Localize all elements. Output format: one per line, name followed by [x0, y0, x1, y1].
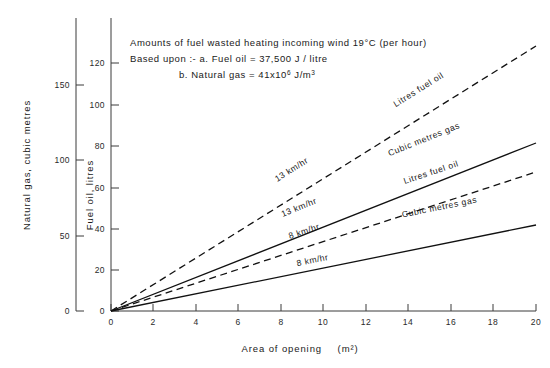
y-right-tick-label: 20	[95, 265, 105, 275]
series-line-litres-fuel-oil-13kmh	[111, 46, 536, 311]
x-tick-label: 4	[193, 317, 198, 327]
x-axis-ticks: 0 2 4 6 8 10 12 14 16 18 20	[108, 304, 541, 327]
x-axis-units: (m²)	[338, 343, 359, 354]
x-tick-label: 20	[531, 317, 541, 327]
chart-note-basis-a: Based upon :- a. Fuel oil = 37,500 J / l…	[130, 53, 328, 64]
speed-label-8kmh-gas: 8 km/hr	[296, 252, 330, 268]
x-tick-label: 18	[488, 317, 498, 327]
y-left-tick-label: 150	[55, 80, 70, 90]
y-right-tick-label: 60	[95, 183, 105, 193]
chart-figure: 150 100 50 0 120 100 80 60 40 20 0	[0, 0, 550, 368]
x-tick-label: 12	[361, 317, 371, 327]
y-left-tick-label: 0	[65, 306, 70, 316]
series-label-litres-fuel-oil-13kmh: Litres fuel oil	[391, 70, 445, 109]
y-right-tick-label: 100	[90, 100, 105, 110]
series-line-litres-fuel-oil-8kmh	[111, 172, 536, 311]
chart-note-basis-b: b. Natural gas = 41x106 J/m3	[179, 69, 315, 81]
y-right-tick-label: 40	[95, 224, 105, 234]
series-label-cubic-metres-gas-8kmh: Cubic metres gas	[401, 195, 478, 220]
y-axis-left-ticks: 150 100 50 0	[55, 80, 84, 316]
x-tick-label: 14	[403, 317, 413, 327]
chart-title-note: Amounts of fuel wasted heating incoming …	[130, 37, 427, 48]
note-b-suffix: J/m	[291, 69, 311, 80]
y-right-tick-label: 120	[90, 58, 105, 68]
series-label-litres-fuel-oil-8kmh: Litres fuel oil	[402, 158, 459, 186]
y-axis-right-title: Fuel oil, litres	[84, 160, 95, 230]
x-tick-label: 6	[235, 317, 240, 327]
y-right-tick-label: 0	[100, 306, 105, 316]
x-tick-label: 16	[446, 317, 456, 327]
x-tick-label: 2	[150, 317, 155, 327]
note-b-prefix: b. Natural gas = 41x10	[179, 69, 287, 80]
x-tick-label: 10	[318, 317, 328, 327]
y-axis-left-title: Natural gas, cubic metres	[21, 100, 32, 230]
x-tick-label: 0	[108, 317, 113, 327]
y-right-tick-label: 80	[95, 141, 105, 151]
y-left-tick-label: 100	[55, 155, 70, 165]
note-b-suffix-exponent: 3	[311, 69, 315, 76]
series-label-cubic-metres-gas-13kmh: Cubic metres gas	[387, 120, 462, 158]
y-left-tick-label: 50	[60, 231, 70, 241]
series-line-cubic-metres-gas-13kmh	[111, 143, 536, 311]
speed-label-13kmh-gas: 13 km/hr	[280, 196, 318, 219]
series-line-cubic-metres-gas-8kmh	[111, 225, 536, 311]
chart-svg: 150 100 50 0 120 100 80 60 40 20 0	[0, 0, 550, 368]
x-axis-title-text: Area of opening	[241, 343, 322, 354]
x-tick-label: 8	[278, 317, 283, 327]
x-axis-title: Area of opening (m²)	[241, 343, 358, 354]
speed-label-8kmh-fuel-oil: 8 km/hr	[287, 221, 321, 241]
speed-label-13kmh-fuel-oil: 13 km/hr	[273, 155, 310, 183]
